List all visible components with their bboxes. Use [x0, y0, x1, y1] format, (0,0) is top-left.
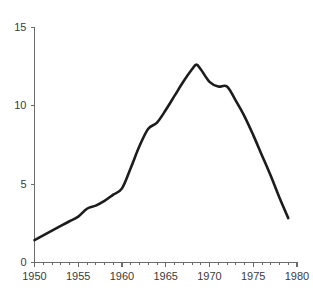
x-tick-label: 1970 — [197, 270, 221, 282]
y-tick-label: 10 — [14, 99, 26, 111]
x-tick-label: 1975 — [241, 270, 265, 282]
line-chart: 051015 1950195519601965197019751980 — [0, 0, 313, 291]
y-tick-label: 0 — [20, 256, 26, 268]
x-tick-label: 1965 — [154, 270, 178, 282]
y-tick-label: 15 — [14, 21, 26, 33]
y-tick-group — [31, 28, 35, 263]
x-tick-labels: 1950195519601965197019751980 — [22, 270, 309, 282]
x-tick-label: 1950 — [22, 270, 46, 282]
x-tick-label: 1955 — [66, 270, 90, 282]
y-tick-label: 5 — [20, 178, 26, 190]
series-1-line — [35, 65, 289, 240]
x-tick-label: 1980 — [285, 270, 309, 282]
chart-canvas: 051015 1950195519601965197019751980 — [0, 0, 313, 291]
x-tick-label: 1960 — [110, 270, 134, 282]
y-tick-labels: 051015 — [14, 21, 26, 268]
